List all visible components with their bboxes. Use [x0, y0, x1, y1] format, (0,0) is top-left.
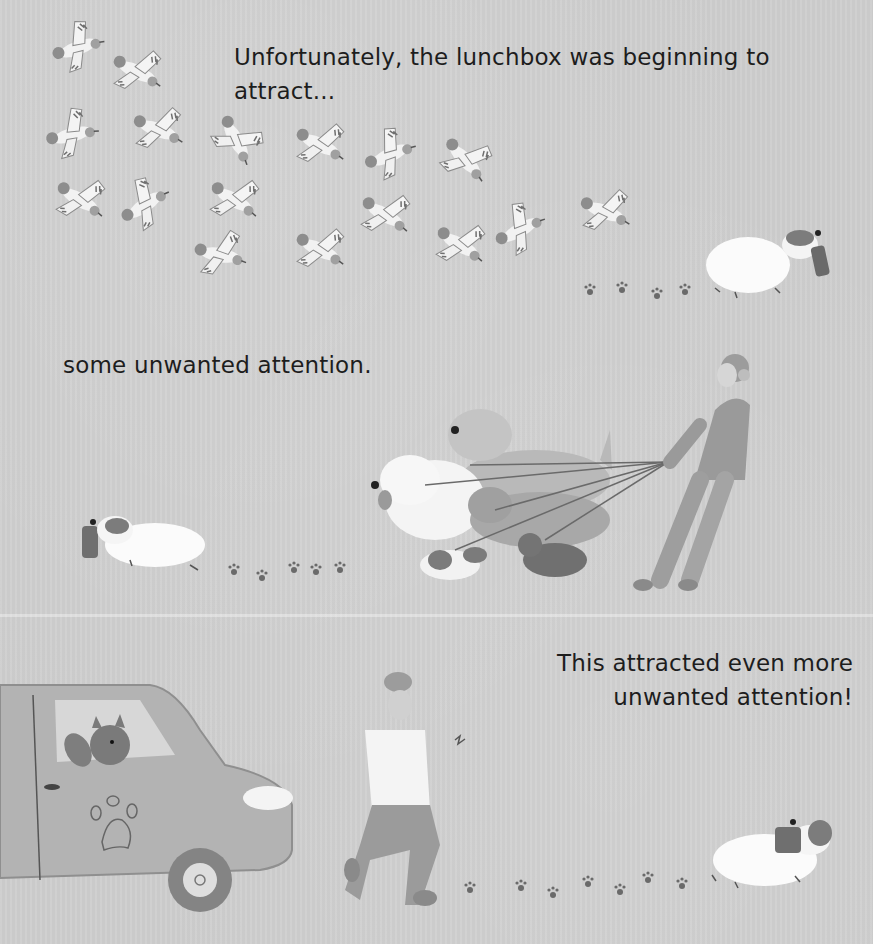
- storybook-page: Unfortunately, the lunchbox was beginnin…: [0, 0, 873, 944]
- van: [0, 685, 293, 912]
- van-chase-scene: [0, 670, 873, 944]
- dog-with-lunchbox-bottom: [712, 819, 832, 888]
- running-man: [344, 672, 465, 906]
- dog-walker-scene: [0, 350, 873, 600]
- page-seam: [0, 614, 873, 617]
- dog-with-lunchbox-top: [706, 230, 830, 298]
- paw-prints-bottom: [464, 871, 687, 898]
- leashed-dogs: [371, 409, 612, 580]
- dog-with-lunchbox-middle: [82, 516, 205, 570]
- paw-prints-middle: [228, 561, 345, 581]
- bird-icon: [40, 14, 639, 279]
- bird-flock: [0, 0, 873, 330]
- paw-prints-top: [584, 281, 690, 299]
